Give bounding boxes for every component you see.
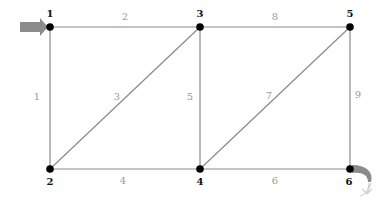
node-5 [346,23,354,31]
edges [50,27,350,169]
node-6 [346,165,354,173]
node-1 [46,23,54,31]
edge-label-4: 4 [120,175,126,186]
node-3 [196,23,204,31]
curved-arrow-icon [352,165,372,196]
right-arrow-icon [20,18,48,36]
edge-labels: 1 2 3 4 5 6 7 8 9 [34,11,361,186]
edge-label-7: 7 [266,90,272,101]
node-label-2: 2 [47,176,54,187]
node-4 [196,165,204,173]
truss-diagram: 1 2 3 4 5 6 7 8 9 1 2 3 4 5 6 [0,0,392,201]
node-label-5: 5 [347,8,354,19]
node-label-4: 4 [197,176,204,187]
edge-label-8: 8 [272,11,278,22]
edge-label-9: 9 [355,89,361,100]
edge-3 [50,27,200,169]
node-2 [46,165,54,173]
edge-label-2: 2 [122,11,128,22]
edge-label-6: 6 [272,175,278,186]
edge-7 [200,27,350,169]
node-label-3: 3 [197,8,204,19]
edge-label-3: 3 [114,91,120,102]
edge-label-5: 5 [187,91,193,102]
node-label-6: 6 [346,176,353,187]
node-label-1: 1 [47,8,54,19]
edge-label-1: 1 [34,91,40,102]
